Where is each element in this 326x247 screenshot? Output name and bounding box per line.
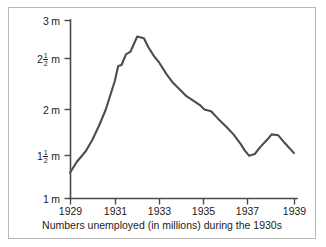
x-tick-label-1937: 1937 (225, 206, 270, 217)
x-tick-label-1933: 1933 (137, 206, 182, 217)
y-tick-3m-unit: m (51, 16, 60, 27)
y-tick-label-1m: 1m (12, 193, 60, 204)
y-tick-2half-numerator: 1 (43, 52, 48, 60)
y-tick-1half-numerator: 1 (43, 149, 48, 157)
y-tick-label-2m: 2m (12, 104, 60, 115)
x-tick-label-1931: 1931 (93, 206, 138, 217)
y-tick-2m-unit: m (51, 105, 60, 116)
y-tick-1half-denominator: 2 (43, 157, 48, 164)
y-tick-1m-whole: 1 (43, 194, 49, 205)
x-tick-label-1935: 1935 (181, 206, 226, 217)
y-tick-1half-unit: m (51, 151, 60, 162)
x-axis-ticks (71, 199, 295, 205)
chart-caption: Numbers unemployed (in millions) during … (8, 220, 316, 231)
x-tick-label-1929: 1929 (48, 206, 93, 217)
y-tick-2m-whole: 2 (43, 105, 49, 116)
x-tick-label-1939: 1939 (272, 206, 317, 217)
y-tick-2half-fraction: 12 (43, 52, 48, 67)
chart-figure: 3m 212m 2m 112m 1m 1929 1931 1933 1935 1… (0, 0, 326, 247)
y-tick-1m-unit: m (51, 194, 60, 205)
y-tick-label-2-half-m: 212m (12, 52, 60, 67)
unemployment-series-line (70, 37, 294, 173)
y-tick-2half-denominator: 2 (43, 60, 48, 67)
y-tick-label-3m: 3m (12, 15, 60, 26)
y-tick-2half-unit: m (51, 54, 60, 65)
y-tick-1half-whole: 1 (37, 151, 43, 162)
y-tick-1half-fraction: 12 (43, 149, 48, 164)
y-tick-label-1-half-m: 112m (12, 149, 60, 164)
y-tick-3m-whole: 3 (43, 16, 49, 27)
y-tick-2half-whole: 2 (37, 54, 43, 65)
